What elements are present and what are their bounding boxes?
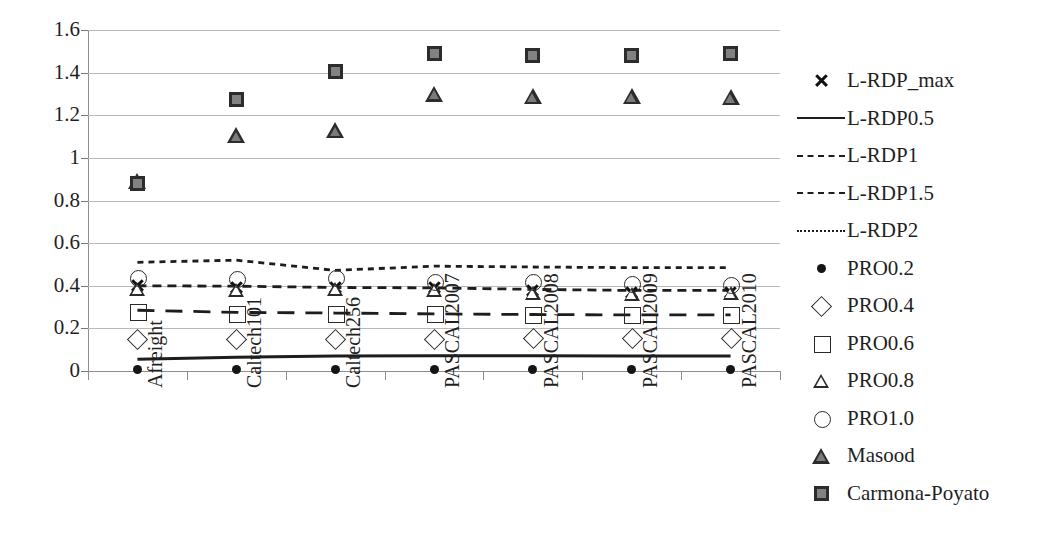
legend-item-pro0-4[interactable]: PRO0.4: [795, 287, 1043, 325]
data-point-pro0-2: [528, 365, 537, 374]
x-category-label: PASCAL2010: [739, 273, 759, 388]
x-tick-mark: [582, 371, 583, 380]
legend-key-open-square-icon: [795, 332, 847, 354]
legend-item-label: L-RDP0.5: [847, 108, 934, 129]
data-point-pro0-2: [232, 365, 241, 374]
data-point-pro1-0: [130, 270, 147, 287]
y-tick-mark: [81, 328, 88, 329]
legend-item-l-rdp1-5[interactable]: L-RDP1.5: [795, 175, 1043, 213]
data-point-pro0-2: [726, 365, 735, 374]
legend-item-label: PRO0.6: [847, 333, 914, 354]
legend-item-pro1-0[interactable]: PRO1.0: [795, 400, 1043, 438]
legend-item-l-rdp2[interactable]: L-RDP2: [795, 212, 1043, 250]
x-tick-mark: [681, 371, 682, 380]
x-tick-mark: [780, 371, 781, 380]
y-axis-labels: 1.61.41.210.80.60.40.20: [0, 0, 80, 400]
legend-item-label: L-RDP1.5: [847, 183, 934, 204]
data-point-pro0-2: [627, 365, 636, 374]
x-tick-mark: [483, 371, 484, 380]
legend-item-masood[interactable]: Masood: [795, 437, 1043, 475]
legend-line-swatch: [797, 117, 845, 119]
data-point-masood: [722, 89, 740, 105]
legend-key-open-circle-icon: [795, 407, 847, 429]
y-tick-mark: [81, 158, 88, 159]
legend-item-carmona-poyato[interactable]: Carmona-Poyato: [795, 475, 1043, 513]
legend-marker-swatch: [814, 73, 829, 88]
data-point-carmona-poyato: [328, 64, 343, 79]
y-tick-label: 1.2: [0, 104, 80, 125]
legend-item-l-rdp0-5[interactable]: L-RDP0.5: [795, 100, 1043, 138]
y-tick-mark: [81, 115, 88, 116]
y-tick-label: 1.4: [0, 62, 80, 83]
chart-legend: L-RDP_maxL-RDP0.5L-RDP1L-RDP1.5L-RDP2PRO…: [795, 62, 1043, 512]
legend-key-filled-triangle-icon: [795, 445, 847, 467]
legend-line-swatch: [797, 155, 845, 157]
legend-key-filled-square-icon: [795, 482, 847, 504]
legend-item-label: L-RDP_max: [847, 70, 954, 91]
data-point-carmona-poyato: [624, 48, 639, 63]
legend-marker-swatch: [817, 264, 826, 273]
data-point-pro0-6: [130, 304, 147, 321]
legend-line-swatch: [797, 230, 845, 232]
legend-marker-swatch: [814, 486, 829, 501]
legend-item-pro0-6[interactable]: PRO0.6: [795, 325, 1043, 363]
data-point-carmona-poyato: [427, 46, 442, 61]
legend-item-l-rdp-max[interactable]: L-RDP_max: [795, 62, 1043, 100]
legend-key-open-diamond-icon: [795, 295, 847, 317]
y-tick-label: 0.8: [0, 190, 80, 211]
legend-item-label: L-RDP2: [847, 220, 918, 241]
x-category-label: Afreight: [145, 320, 165, 388]
legend-item-pro0-2[interactable]: PRO0.2: [795, 250, 1043, 288]
y-tick-label: 0: [0, 360, 80, 381]
y-tick-label: 0.4: [0, 275, 80, 296]
plot-area: [88, 30, 780, 371]
data-point-carmona-poyato: [130, 176, 145, 191]
data-point-masood: [524, 88, 542, 104]
y-tick-label: 0.2: [0, 317, 80, 338]
line-series-l-rdp2: [137, 260, 730, 270]
legend-line-swatch: [797, 192, 845, 194]
y-tick-label: 1.6: [0, 19, 80, 40]
data-point-masood: [623, 88, 641, 104]
legend-item-label: PRO0.2: [847, 258, 914, 279]
legend-key-open-triangle-icon: [795, 370, 847, 392]
y-tick-label: 1: [0, 147, 80, 168]
legend-key-solid-icon: [795, 107, 847, 129]
x-tick-mark: [187, 371, 188, 380]
data-point-carmona-poyato: [229, 92, 244, 107]
x-category-label: PASCAL2009: [640, 273, 660, 388]
data-point-masood: [425, 86, 443, 102]
legend-item-label: Carmona-Poyato: [847, 483, 989, 504]
data-point-pro0-2: [133, 365, 142, 374]
data-point-pro0-2: [430, 365, 439, 374]
data-point-carmona-poyato: [525, 48, 540, 63]
legend-item-pro0-8[interactable]: PRO0.8: [795, 362, 1043, 400]
x-category-label: PASCAL2008: [541, 273, 561, 388]
y-tick-mark: [81, 371, 88, 372]
legend-item-label: Masood: [847, 445, 915, 466]
legend-marker-swatch: [813, 374, 829, 388]
x-tick-mark: [88, 371, 89, 380]
y-tick-mark: [81, 286, 88, 287]
y-tick-mark: [81, 73, 88, 74]
legend-key-short-dash-icon: [795, 220, 847, 242]
legend-marker-swatch: [814, 336, 831, 353]
legend-marker-swatch: [814, 411, 831, 428]
legend-key-x-icon: [795, 70, 847, 92]
legend-marker-swatch: [811, 296, 832, 317]
x-category-label: Caltech101: [244, 297, 264, 388]
data-point-masood: [326, 122, 344, 138]
x-tick-mark: [286, 371, 287, 380]
legend-item-label: PRO0.8: [847, 370, 914, 391]
legend-key-long-dash-icon: [795, 145, 847, 167]
x-tick-mark: [385, 371, 386, 380]
chart-figure: 1.61.41.210.80.60.40.20 AfreightCaltech1…: [0, 0, 1043, 553]
legend-marker-swatch: [812, 448, 830, 464]
legend-item-label: L-RDP1: [847, 145, 918, 166]
y-tick-mark: [81, 30, 88, 31]
legend-item-label: PRO1.0: [847, 408, 914, 429]
legend-item-l-rdp1[interactable]: L-RDP1: [795, 137, 1043, 175]
x-category-label: PASCAL2007: [442, 273, 462, 388]
y-tick-mark: [81, 243, 88, 244]
legend-item-label: PRO0.4: [847, 295, 914, 316]
